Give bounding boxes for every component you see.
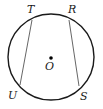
- label-U: U: [8, 89, 18, 102]
- label-T: T: [27, 3, 36, 16]
- label-O: O: [45, 60, 54, 73]
- chord-TU: [20, 20, 32, 85]
- label-S: S: [80, 90, 88, 103]
- label-R: R: [67, 3, 76, 16]
- chord-RS: [69, 20, 79, 86]
- circle-diagram: O T R U S: [0, 0, 103, 109]
